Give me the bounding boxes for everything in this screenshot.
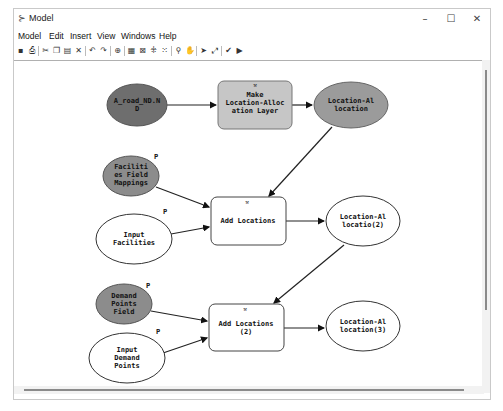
hammer-icon: ⚒ xyxy=(245,198,249,205)
node-road-network[interactable]: A_road_ND.N D xyxy=(107,84,167,126)
node-location-allocation-2[interactable]: Location-Al locatio(2) xyxy=(326,196,400,246)
node-label: Location-Al xyxy=(340,213,386,221)
node-demand-points-field[interactable]: P Demand Points Field xyxy=(96,282,152,324)
paste-icon[interactable]: ▤ xyxy=(63,46,72,56)
connect-icon[interactable]: ⤢ xyxy=(210,46,219,56)
node-label: locatio(2) xyxy=(342,221,384,229)
pan-icon[interactable]: ✋ xyxy=(185,46,194,56)
toolbar-separator xyxy=(38,46,39,56)
close-button[interactable]: ✕ xyxy=(467,12,487,26)
node-label: Add Locations xyxy=(219,320,274,328)
toolbar-separator xyxy=(221,46,222,56)
full-extent-icon[interactable]: ⊠ xyxy=(138,46,147,56)
node-label: Add Locations xyxy=(221,217,276,225)
window-title: Model xyxy=(29,13,54,23)
model-builder-icon: ⊱ xyxy=(18,13,26,23)
menu-edit[interactable]: Edit xyxy=(49,31,64,41)
menu-insert[interactable]: Insert xyxy=(70,31,91,41)
print-icon[interactable]: ⎙ xyxy=(27,46,36,56)
auto-layout-icon[interactable]: ▦ xyxy=(127,46,136,56)
copy-icon[interactable]: ❐ xyxy=(52,46,61,56)
node-label: es Field xyxy=(114,171,148,179)
node-input-demand-points[interactable]: P Input Demand Points xyxy=(89,328,165,383)
vertical-scrollbar[interactable] xyxy=(482,60,490,393)
node-label: Demand xyxy=(114,354,139,362)
add-data-icon[interactable]: ⊕ xyxy=(113,46,122,56)
toolbar-separator xyxy=(196,46,197,56)
fixed-zoom-in-icon[interactable]: ⁜ xyxy=(149,46,158,56)
node-location-allocation[interactable]: Location-Al location xyxy=(314,82,388,128)
node-label: location xyxy=(334,105,368,113)
validate-icon[interactable]: ✔ xyxy=(224,46,233,56)
toolbar-separator xyxy=(85,46,86,56)
select-icon[interactable]: ➤ xyxy=(199,46,208,56)
node-label: Facilities xyxy=(113,239,155,247)
parameter-marker: P xyxy=(146,282,150,290)
delete-icon[interactable]: ✕ xyxy=(74,46,83,56)
node-label: Points xyxy=(111,300,136,308)
menu-view[interactable]: View xyxy=(97,31,115,41)
node-label: ation Layer xyxy=(232,107,278,115)
node-make-location-allocation-layer[interactable]: ⚒ Make Location-Alloc ation Layer xyxy=(218,81,292,129)
redo-icon[interactable]: ↷ xyxy=(99,46,108,56)
save-icon[interactable]: ▪ xyxy=(16,46,25,56)
node-label: Faciliti xyxy=(114,163,148,171)
node-label: Location-Alloc xyxy=(225,99,284,107)
node-add-locations-2[interactable]: ⚒ Add Locations (2) xyxy=(209,304,284,351)
node-label: Field xyxy=(113,308,134,316)
node-facilities-field-mappings[interactable]: P Faciliti es Field Mappings xyxy=(103,153,159,196)
node-label: Mappings xyxy=(114,179,148,187)
menu-windows[interactable]: Windows xyxy=(121,31,155,41)
hammer-icon: ⚒ xyxy=(253,81,257,88)
node-label: Points xyxy=(114,362,139,370)
model-window: ⊱ Model – ☐ ✕ Model Edit Insert View Win… xyxy=(13,8,491,400)
node-label: (2) xyxy=(240,328,253,336)
run-icon[interactable]: ▶ xyxy=(235,46,244,56)
horizontal-scrollbar[interactable] xyxy=(14,386,484,394)
model-canvas[interactable]: A_road_ND.N D ⚒ Make Location-Alloc atio… xyxy=(14,60,484,394)
parameter-marker: P xyxy=(163,208,167,216)
menu-help[interactable]: Help xyxy=(159,31,176,41)
menu-model[interactable]: Model xyxy=(18,31,41,41)
node-label: location(3) xyxy=(340,326,386,334)
node-input-facilities[interactable]: P Input Facilities xyxy=(96,208,172,264)
fixed-zoom-out-icon[interactable]: ⁙ xyxy=(160,46,169,56)
hammer-icon: ⚒ xyxy=(243,305,247,312)
parameter-marker: P xyxy=(156,328,160,336)
cut-icon[interactable]: ✂ xyxy=(41,46,50,56)
node-label: Input xyxy=(123,231,144,239)
node-label: Input xyxy=(116,346,137,354)
title-bar[interactable]: ⊱ Model – ☐ ✕ xyxy=(14,9,490,29)
undo-icon[interactable]: ↶ xyxy=(88,46,97,56)
parameter-marker: P xyxy=(154,153,158,161)
maximize-button[interactable]: ☐ xyxy=(441,12,461,26)
model-diagram: A_road_ND.N D ⚒ Make Location-Alloc atio… xyxy=(14,61,484,386)
node-add-locations[interactable]: ⚒ Add Locations xyxy=(211,197,286,245)
vertical-scroll-thumb[interactable] xyxy=(485,70,487,310)
horizontal-scroll-thumb[interactable] xyxy=(24,389,464,391)
node-label: D xyxy=(135,105,139,113)
node-label: Demand xyxy=(111,292,136,300)
node-label: Make xyxy=(247,91,264,99)
zoom-icon[interactable]: ⚲ xyxy=(174,46,183,56)
minimize-button[interactable]: – xyxy=(415,12,435,26)
node-label: Location-Al xyxy=(328,97,374,105)
toolbar-separator xyxy=(171,46,172,56)
toolbar-separator xyxy=(124,46,125,56)
menu-bar: Model Edit Insert View Windows Help xyxy=(14,29,490,43)
node-label: Location-Al xyxy=(340,318,386,326)
toolbar-separator xyxy=(110,46,111,56)
node-label: A_road_ND.N xyxy=(114,97,160,105)
node-location-allocation-3[interactable]: Location-Al location(3) xyxy=(326,301,400,351)
toolbar: ▪⎙✂❐▤✕↶↷⊕▦⊠⁜⁙⚲✋➤⤢✔▶ xyxy=(14,43,490,59)
